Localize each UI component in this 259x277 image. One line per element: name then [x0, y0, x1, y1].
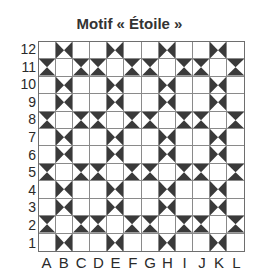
- grid-cell-D1: [90, 234, 107, 251]
- row-label: 11: [12, 59, 36, 77]
- star-point-icon: [73, 164, 89, 180]
- grid-cell-B1: [56, 234, 73, 251]
- grid-cell-E3: [107, 199, 124, 216]
- grid-cell-E10: [107, 77, 124, 94]
- grid-cell-C4: [73, 181, 90, 198]
- grid-cell-C8: [73, 112, 90, 129]
- grid-cell-K10: [210, 77, 227, 94]
- grid-cell-H5: [159, 164, 176, 181]
- grid-cell-G1: [142, 234, 159, 251]
- grid-cell-L7: [227, 129, 244, 146]
- grid-cell-L12: [227, 42, 244, 59]
- grid-cell-H6: [159, 146, 176, 163]
- star-point-icon: [142, 112, 158, 128]
- grid-cell-J3: [193, 199, 210, 216]
- row-labels: 121110987654321: [12, 41, 36, 252]
- grid-cell-I6: [176, 146, 193, 163]
- grid-cell-I11: [176, 59, 193, 76]
- grid-cell-G9: [142, 94, 159, 111]
- grid-cell-G4: [142, 181, 159, 198]
- grid-cell-I3: [176, 199, 193, 216]
- grid-cell-A9: [39, 94, 56, 111]
- grid-cell-A10: [39, 77, 56, 94]
- row-label: 5: [12, 164, 36, 182]
- grid-cell-H7: [159, 129, 176, 146]
- grid-cell-E1: [107, 234, 124, 251]
- grid-cell-D9: [90, 94, 107, 111]
- column-label: E: [107, 253, 124, 273]
- grid-cell-K9: [210, 94, 227, 111]
- star-point-icon: [210, 94, 226, 110]
- grid-cell-E2: [107, 216, 124, 233]
- grid-cell-B2: [56, 216, 73, 233]
- grid-cell-L4: [227, 181, 244, 198]
- grid-cell-F2: [124, 216, 141, 233]
- grid-cell-K1: [210, 234, 227, 251]
- star-point-icon: [90, 59, 106, 75]
- star-point-icon: [159, 199, 175, 215]
- star-point-icon: [159, 77, 175, 93]
- grid-cell-A2: [39, 216, 56, 233]
- star-point-icon: [107, 42, 123, 58]
- grid-cell-I5: [176, 164, 193, 181]
- star-point-icon: [90, 216, 106, 232]
- star-point-icon: [193, 216, 209, 232]
- row-label: 9: [12, 94, 36, 112]
- star-point-icon: [56, 77, 72, 93]
- grid-cell-A4: [39, 181, 56, 198]
- grid-cell-B9: [56, 94, 73, 111]
- grid-cell-K8: [210, 112, 227, 129]
- grid-cell-H9: [159, 94, 176, 111]
- grid-cell-C11: [73, 59, 90, 76]
- grid-cell-I4: [176, 181, 193, 198]
- grid-cell-L8: [227, 112, 244, 129]
- grid-cell-K2: [210, 216, 227, 233]
- grid-cell-E8: [107, 112, 124, 129]
- grid-cell-C1: [73, 234, 90, 251]
- grid-cell-J10: [193, 77, 210, 94]
- star-point-icon: [159, 146, 175, 162]
- grid-cell-I1: [176, 234, 193, 251]
- grid-cell-G7: [142, 129, 159, 146]
- row-label: 12: [12, 41, 36, 59]
- grid-cell-D6: [90, 146, 107, 163]
- star-point-icon: [39, 164, 55, 180]
- grid-cell-H12: [159, 42, 176, 59]
- grid-cell-J7: [193, 129, 210, 146]
- column-label: I: [176, 253, 193, 273]
- grid-cell-B7: [56, 129, 73, 146]
- row-label: 4: [12, 182, 36, 200]
- grid-cell-C6: [73, 146, 90, 163]
- grid-cell-D2: [90, 216, 107, 233]
- grid-cell-B4: [56, 181, 73, 198]
- grid-cell-F12: [124, 42, 141, 59]
- grid-cell-D8: [90, 112, 107, 129]
- column-label: F: [124, 253, 141, 273]
- grid-cell-J1: [193, 234, 210, 251]
- star-point-icon: [107, 129, 123, 145]
- star-point-icon: [210, 77, 226, 93]
- row-label: 2: [12, 217, 36, 235]
- grid-cell-I2: [176, 216, 193, 233]
- grid-cell-F6: [124, 146, 141, 163]
- star-point-icon: [107, 77, 123, 93]
- grid-cell-I9: [176, 94, 193, 111]
- grid-cell-C2: [73, 216, 90, 233]
- grid-cell-C7: [73, 129, 90, 146]
- star-point-icon: [107, 181, 123, 197]
- star-point-icon: [107, 199, 123, 215]
- grid-cell-K7: [210, 129, 227, 146]
- grid-cell-A12: [39, 42, 56, 59]
- grid-cell-I10: [176, 77, 193, 94]
- grid-cell-D12: [90, 42, 107, 59]
- grid-cell-E9: [107, 94, 124, 111]
- star-point-icon: [176, 216, 192, 232]
- grid-cell-E11: [107, 59, 124, 76]
- grid-cell-H3: [159, 199, 176, 216]
- grid-cell-H1: [159, 234, 176, 251]
- grid-cell-J4: [193, 181, 210, 198]
- grid-cell-L9: [227, 94, 244, 111]
- grid-cell-F10: [124, 77, 141, 94]
- grid-cell-L1: [227, 234, 244, 251]
- grid-cell-F4: [124, 181, 141, 198]
